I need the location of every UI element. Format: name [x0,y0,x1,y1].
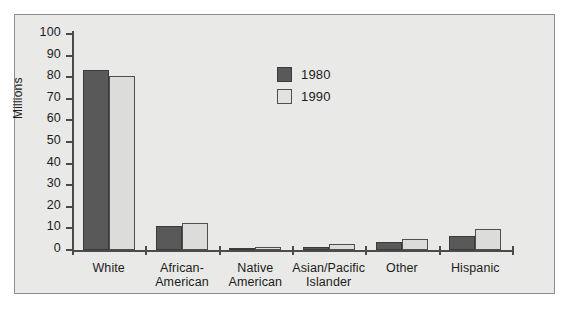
bar-1990-white [109,76,135,250]
x-axis-category-label-line: American [219,275,292,289]
y-axis-tick-label: 10 [47,219,61,233]
y-axis-tick: 70 [66,98,74,100]
legend-item-label: 1980 [301,67,331,82]
chart-plate: Millions 1009080706050403020100 WhiteAfr… [14,14,555,294]
y-axis-tick: 90 [66,55,74,57]
x-axis-category-label-line: Native [219,261,292,275]
x-axis-category-label: White [72,261,145,275]
y-axis-tick-label: 0 [54,241,61,255]
y-axis-tick: 50 [66,141,74,143]
y-axis-tick: 10 [66,227,74,229]
x-axis-tick [219,246,221,255]
bar-1990-other [402,239,428,250]
legend-item-label: 1990 [301,89,331,104]
bar-1990-african-american [182,223,208,250]
legend-item: 1990 [277,85,331,107]
bar-1980-hispanic [449,236,475,250]
x-axis-category-label: Asian/PacificIslander [292,261,365,289]
x-axis-tick [439,246,441,255]
bar-1980-other [376,242,402,250]
x-axis-category-label: African-American [145,261,218,289]
y-axis-title: Millions [11,77,25,119]
x-axis-category-label: NativeAmerican [219,261,292,289]
x-axis-category-label-line: Asian/Pacific [292,261,365,275]
chart-legend: 19801990 [277,63,331,107]
y-axis-tick-label: 70 [47,90,61,104]
legend-item: 1980 [277,63,331,85]
y-axis-tick: 80 [66,76,74,78]
y-axis-tick-label: 40 [47,155,61,169]
bar-1980-asian-pacific-islander [303,247,329,250]
bar-1990-hispanic [475,229,501,250]
bar-1980-native-american [229,248,255,250]
y-axis-tick: 40 [66,163,74,165]
y-axis-tick-label: 20 [47,198,61,212]
bar-1980-white [83,70,109,250]
x-axis-category-label-line: American [145,275,218,289]
bar-1990-native-american [255,247,281,250]
x-axis-category-label-line: African- [145,261,218,275]
x-axis-category-label: Hispanic [439,261,512,275]
figure-container: Millions 1009080706050403020100 WhiteAfr… [0,0,571,309]
x-axis-tick [145,246,147,255]
x-axis-category-label: Other [365,261,438,275]
y-axis-tick: 100 [66,33,74,35]
x-axis-category-label-line: White [72,261,145,275]
x-axis-category-label-line: Other [365,261,438,275]
light-gray-swatch [277,89,292,104]
x-axis-tick [365,246,367,255]
y-axis-tick-label: 100 [40,25,61,39]
y-axis-tick-label: 30 [47,176,61,190]
x-axis-category-label-line: Hispanic [439,261,512,275]
bar-1990-asian-pacific-islander [329,244,355,250]
x-axis-category-label-line: Islander [292,275,365,289]
x-axis-tick [512,246,514,255]
y-axis-tick: 60 [66,119,74,121]
y-axis-tick: 30 [66,184,74,186]
bar-1980-african-american [156,226,182,250]
x-axis-tick [292,246,294,255]
dark-gray-swatch [277,67,292,82]
x-axis-tick [72,246,74,255]
y-axis-tick: 20 [66,206,74,208]
y-axis-tick-label: 90 [47,47,61,61]
y-axis-tick-label: 50 [47,133,61,147]
y-axis-tick-label: 60 [47,111,61,125]
plot-area: Millions 1009080706050403020100 WhiteAfr… [15,15,556,295]
y-axis-tick-label: 80 [47,68,61,82]
